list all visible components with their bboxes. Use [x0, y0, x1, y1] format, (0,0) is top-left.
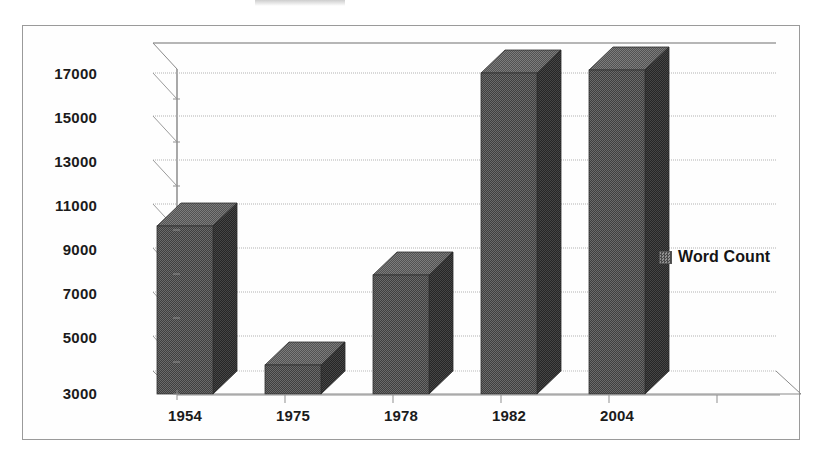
chart-legend[interactable]: Word Count: [659, 248, 770, 266]
chart-gridlines: [153, 73, 776, 362]
chart-frame: 17000 15000 13000 11000 9000 7000 5000 3…: [22, 25, 800, 440]
ytick-label-3000: 3000: [23, 385, 97, 402]
bar-1978[interactable]: [373, 252, 453, 394]
ytick-label-13000: 13000: [23, 153, 97, 170]
scan-artifact-top: [255, 0, 345, 6]
xtick-label-1982: 1982: [475, 407, 543, 424]
legend-swatch-icon: [659, 251, 672, 264]
ytick-label-11000: 11000: [23, 197, 97, 214]
xtick-label-1954: 1954: [151, 407, 219, 424]
legend-entry-label: Word Count: [678, 248, 770, 266]
ytick-label-5000: 5000: [23, 329, 97, 346]
ytick-label-7000: 7000: [23, 285, 97, 302]
xtick-label-2004: 2004: [583, 407, 651, 424]
xtick-label-1975: 1975: [259, 407, 327, 424]
bar-1975[interactable]: [265, 342, 345, 394]
bar-1982[interactable]: [481, 50, 561, 394]
ytick-label-15000: 15000: [23, 109, 97, 126]
chart-3d-walls: [153, 43, 801, 394]
bar-1954[interactable]: [157, 203, 237, 394]
bar-chart-3d-svg: [23, 26, 801, 441]
ytick-label-9000: 9000: [23, 241, 97, 258]
bar-2004[interactable]: [589, 47, 669, 394]
xtick-label-1978: 1978: [367, 407, 435, 424]
chart-plot-area: 17000 15000 13000 11000 9000 7000 5000 3…: [23, 26, 801, 441]
ytick-label-17000: 17000: [23, 65, 97, 82]
